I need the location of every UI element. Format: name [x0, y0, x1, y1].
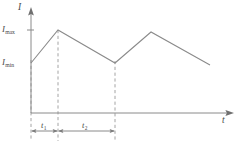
figure-container: I t Imax Imin t1 t2: [0, 0, 237, 154]
x-axis-label-text: t: [222, 115, 225, 125]
dimension-label-t1: t1: [41, 121, 46, 130]
dimension-label-t2: t2: [82, 121, 87, 130]
dimension-label-t1-sub: 1: [44, 125, 47, 131]
y-tick-label-i-max: Imax: [2, 25, 15, 34]
y-axis-label-text: I: [18, 2, 21, 12]
dimension-label-t2-sub: 2: [85, 125, 88, 131]
y-tick-label-i-min: Imin: [2, 58, 14, 67]
y-tick-label-i-max-sub: max: [5, 29, 15, 35]
y-tick-label-i-min-sub: min: [5, 62, 14, 68]
x-axis-label: t: [222, 116, 225, 126]
x-axis-group: [31, 110, 234, 116]
waveform-plot: [0, 0, 237, 154]
y-axis-label: I: [18, 3, 21, 13]
